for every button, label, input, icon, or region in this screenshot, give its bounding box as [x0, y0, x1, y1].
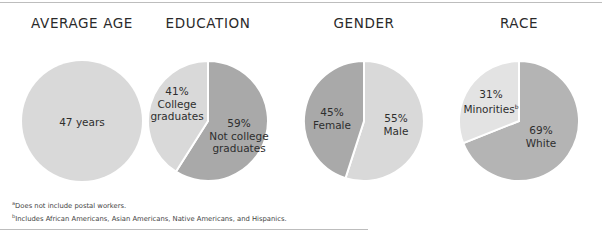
footnotes: aDoes not include postal workers. bInclu…: [12, 198, 287, 224]
pie-race: [458, 60, 580, 182]
panel-title: RACE: [444, 15, 594, 31]
slice-label-college: 41% College graduates: [147, 85, 207, 123]
slice-label-minorities: 31% Minoritiesb: [458, 88, 524, 115]
panel-education: EDUCATION 41% College graduates 59% Not …: [133, 0, 283, 190]
panel-title: EDUCATION: [133, 15, 283, 31]
footnote-b: bIncludes African Americans, Asian Ameri…: [12, 211, 287, 224]
footnote-a: aDoes not include postal workers.: [12, 198, 287, 211]
panel-title: GENDER: [289, 15, 439, 31]
slice-label-male: 55% Male: [371, 112, 421, 137]
panel-gender: GENDER 45% Female 55% Male: [289, 0, 439, 190]
panel-race: RACE 31% Minoritiesb 69% White: [444, 0, 594, 190]
slice-label-female: 45% Female: [307, 106, 357, 131]
slice-label-white: 69% White: [516, 124, 566, 149]
bottom-divider: [0, 229, 368, 230]
slice-label-not-college: 59% Not college graduates: [201, 117, 277, 155]
